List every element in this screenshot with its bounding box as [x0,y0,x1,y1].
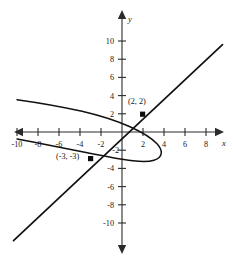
y-tick-label: 8 [110,55,114,64]
x-tick-labels: -10 -8 -6 -4 -2 2 4 6 8 [12,140,209,149]
graph-figure: -10 -8 -6 -4 -2 2 4 6 8 10 8 6 4 2 -2 -4… [0,0,233,260]
x-tick-label: -8 [35,140,42,149]
line-curve [14,45,223,241]
point-label-upper: (2, 2) [128,97,146,106]
x-axis-arrow-left [14,128,23,136]
y-tick-label: -8 [107,201,114,210]
point-marker-lower [88,156,93,161]
y-tick-label: -6 [107,183,114,192]
y-tick-label: 2 [110,110,114,119]
x-tick-label: -4 [77,140,84,149]
x-axis-label: x [221,138,226,148]
y-tick-label: -10 [103,219,114,228]
x-tick-label: 8 [204,140,208,149]
y-tick-label: 4 [110,92,114,101]
x-tick-label: 4 [162,140,166,149]
x-tick-label: 6 [183,140,187,149]
y-axis-label: y [127,14,132,24]
coordinate-plane: -10 -8 -6 -4 -2 2 4 6 8 10 8 6 4 2 -2 -4… [0,0,233,260]
x-axis-arrow-right [215,128,224,136]
y-tick-label: 6 [110,73,114,82]
y-axis-arrow-down [118,245,126,254]
x-axis [14,128,224,136]
parabola-curve [17,100,161,162]
y-tick-label: 10 [106,37,114,46]
x-tick-label: -2 [98,140,105,149]
point-label-lower: (-3, -3) [56,152,79,161]
y-axis-arrow-up [118,10,126,19]
point-marker-upper [140,112,145,117]
x-tick-label: -10 [12,140,23,149]
x-tick-label: 2 [141,140,145,149]
y-tick-label: -4 [107,164,114,173]
